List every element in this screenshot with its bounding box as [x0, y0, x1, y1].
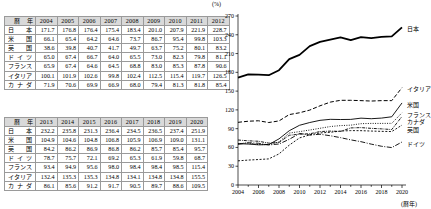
country-name-cell: 米国: [5, 136, 36, 145]
debt-value-cell: 91.2: [79, 181, 101, 190]
debt-value-cell: 115.4: [186, 163, 208, 172]
country-name-cell: 英国: [5, 145, 36, 154]
debt-value-cell: 84.2: [36, 145, 58, 154]
debt-value-cell: 38.6: [36, 44, 58, 53]
debt-value-cell: 232.2: [36, 127, 58, 136]
y-tick-label: 30: [219, 163, 234, 169]
y-tick-label: 210: [219, 51, 234, 57]
debt-value-cell: 79.8: [186, 53, 208, 62]
debt-value-cell: 176.8: [57, 26, 79, 35]
debt-value-cell: 73.0: [143, 53, 165, 62]
col-header: 暦 年: [5, 17, 36, 26]
debt-value-cell: 88.6: [165, 181, 187, 190]
debt-value-cell: 135.3: [79, 172, 101, 181]
debt-value-cell: 70.6: [57, 80, 79, 89]
debt-value-cell: 115.4: [165, 71, 187, 80]
debt-value-cell: 98.4: [143, 163, 165, 172]
debt-value-cell: 231.3: [79, 127, 101, 136]
debt-value-cell: 69.2: [100, 154, 122, 163]
y-tick-label: 150: [219, 88, 234, 94]
x-tick-label: 2016: [351, 189, 371, 195]
debt-value-cell: 86.7: [143, 35, 165, 44]
debt-value-cell: 68.0: [122, 80, 144, 89]
debt-value-cell: 39.8: [57, 44, 79, 53]
country-name-cell: フランス: [5, 62, 36, 71]
debt-value-cell: 64.2: [79, 35, 101, 44]
table-row: 英国84.286.286.986.886.285.785.495.7: [5, 145, 208, 154]
table-row: 米国66.165.464.264.673.786.795.499.8103.3: [5, 35, 230, 44]
table-top-head: 暦 年 2004 2005 2006 2007 2008 2009 2010 2…: [5, 17, 230, 26]
debt-value-cell: 49.7: [122, 44, 144, 53]
col-header: 2007: [100, 17, 122, 26]
x-tick-label: 2006: [249, 189, 269, 195]
debt-value-cell: 236.4: [100, 127, 122, 136]
debt-value-cell: 82.3: [165, 53, 187, 62]
x-tick-label: 2018: [372, 189, 392, 195]
col-header: 2013: [36, 118, 58, 127]
debt-value-cell: 59.8: [165, 154, 187, 163]
debt-value-cell: 61.9: [143, 154, 165, 163]
col-header: 2020: [186, 118, 208, 127]
debt-value-cell: 135.3: [57, 172, 79, 181]
debt-value-cell: 175.4: [100, 26, 122, 35]
table-row: 暦 年 2013 2014 2015 2016 2017 2018 2019 2…: [5, 118, 208, 127]
debt-value-cell: 109.5: [186, 181, 208, 190]
debt-value-cell: 63.7: [143, 44, 165, 53]
debt-value-cell: 64.0: [100, 53, 122, 62]
debt-value-cell: 95.7: [186, 145, 208, 154]
country-name-cell: ドイツ: [5, 154, 36, 163]
legend-label-日本: 日本: [407, 24, 419, 33]
country-name-cell: ドイツ: [5, 53, 36, 62]
col-header: 2010: [165, 17, 187, 26]
legend-label-ドイツ: ドイツ: [407, 139, 425, 148]
country-name-cell: カナダ: [5, 80, 36, 89]
x-tick-label: 2004: [228, 189, 248, 195]
debt-value-cell: 119.7: [186, 71, 208, 80]
table-row: カナダ71.970.669.966.968.079.481.381.885.4: [5, 80, 230, 89]
table-bottom: 暦 年 2013 2014 2015 2016 2017 2018 2019 2…: [4, 117, 208, 191]
debt-value-cell: 65.5: [122, 53, 144, 62]
y-tick-label: 0: [219, 182, 234, 188]
debt-value-cell: 90.5: [122, 181, 144, 190]
table-row: フランス93.494.995.698.098.498.498.5115.4: [5, 163, 208, 172]
chart-plot-area: [210, 0, 421, 209]
debt-value-cell: 106.8: [100, 136, 122, 145]
debt-value-cell: 104.8: [79, 136, 101, 145]
debt-value-cell: 65.9: [36, 62, 58, 71]
debt-value-cell: 91.7: [100, 181, 122, 190]
country-name-cell: 米国: [5, 35, 36, 44]
debt-value-cell: 95.4: [165, 35, 187, 44]
debt-value-cell: 221.9: [186, 26, 208, 35]
debt-value-cell: 66.1: [36, 35, 58, 44]
col-header: 2008: [122, 17, 144, 26]
debt-table-2004-2012: 暦 年 2004 2005 2006 2007 2008 2009 2010 2…: [4, 16, 230, 90]
debt-value-cell: 86.9: [79, 145, 101, 154]
debt-value-cell: 94.9: [57, 163, 79, 172]
debt-value-cell: 95.6: [79, 163, 101, 172]
x-tick-label: 2010: [290, 189, 310, 195]
debt-value-cell: 100.1: [36, 71, 58, 80]
debt-value-cell: 102.4: [122, 71, 144, 80]
y-tick-label: 270: [219, 13, 234, 19]
debt-value-cell: 171.7: [36, 26, 58, 35]
x-tick-label: 2020: [392, 189, 412, 195]
debt-value-cell: 134.8: [143, 172, 165, 181]
table-top-body: 日本171.7176.8176.4175.4183.4201.0207.9221…: [5, 26, 230, 90]
debt-table-2013-2020: 暦 年 2013 2014 2015 2016 2017 2018 2019 2…: [4, 117, 208, 191]
debt-value-cell: 251.9: [186, 127, 208, 136]
y-tick-label: 240: [219, 32, 234, 38]
debt-value-cell: 106.9: [143, 136, 165, 145]
table-row: 米国104.9104.6104.8106.8105.9106.9109.0131…: [5, 136, 208, 145]
debt-value-cell: 99.8: [186, 35, 208, 44]
debt-value-cell: 65.0: [36, 53, 58, 62]
table-bottom-body: 日本232.2235.8231.3236.4234.5236.5237.4251…: [5, 127, 208, 191]
debt-value-cell: 235.8: [57, 127, 79, 136]
debt-value-cell: 134.8: [165, 172, 187, 181]
debt-value-cell: 66.9: [100, 80, 122, 89]
debt-value-cell: 183.4: [122, 26, 144, 35]
table-row: ドイツ65.067.466.764.065.573.082.379.881.1: [5, 53, 230, 62]
debt-value-cell: 102.6: [79, 71, 101, 80]
debt-value-cell: 131.1: [186, 136, 208, 145]
debt-value-cell: 40.7: [79, 44, 101, 53]
debt-value-cell: 64.5: [100, 62, 122, 71]
